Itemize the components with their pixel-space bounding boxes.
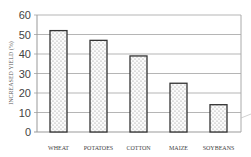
y-tick-label: 50 — [19, 29, 31, 41]
bar-potatoes — [90, 40, 107, 132]
bars — [50, 31, 227, 132]
bar-chart: 0102030405060 WHEATPOTATOESCOTTONMAIZESO… — [0, 0, 251, 157]
x-axis-labels: WHEATPOTATOESCOTTONMAIZESOYBEANS — [48, 145, 234, 151]
x-tick-label: SOYBEANS — [203, 145, 235, 151]
y-tick-label: 30 — [19, 68, 31, 80]
y-tick-label: 40 — [19, 48, 31, 60]
bar-maize — [170, 83, 187, 132]
y-tick-label: 60 — [19, 9, 31, 21]
x-tick-label: WHEAT — [48, 145, 69, 151]
bar-wheat — [50, 31, 67, 132]
pointer-line — [241, 114, 251, 118]
x-tick-label: MAIZE — [169, 145, 188, 151]
bar-soybeans — [210, 105, 227, 132]
x-tick-label: COTTON — [126, 145, 151, 151]
y-tick-label: 20 — [19, 87, 31, 99]
bar-cotton — [130, 56, 147, 132]
x-tick-label: POTATOES — [84, 145, 113, 151]
chart-canvas: 0102030405060 WHEATPOTATOESCOTTONMAIZESO… — [0, 0, 251, 157]
y-tick-label: 0 — [25, 126, 31, 138]
y-axis-ticks: 0102030405060 — [19, 9, 31, 138]
y-tick-label: 10 — [19, 107, 31, 119]
y-axis-label: INCREASED YIELD (%) — [8, 41, 15, 104]
